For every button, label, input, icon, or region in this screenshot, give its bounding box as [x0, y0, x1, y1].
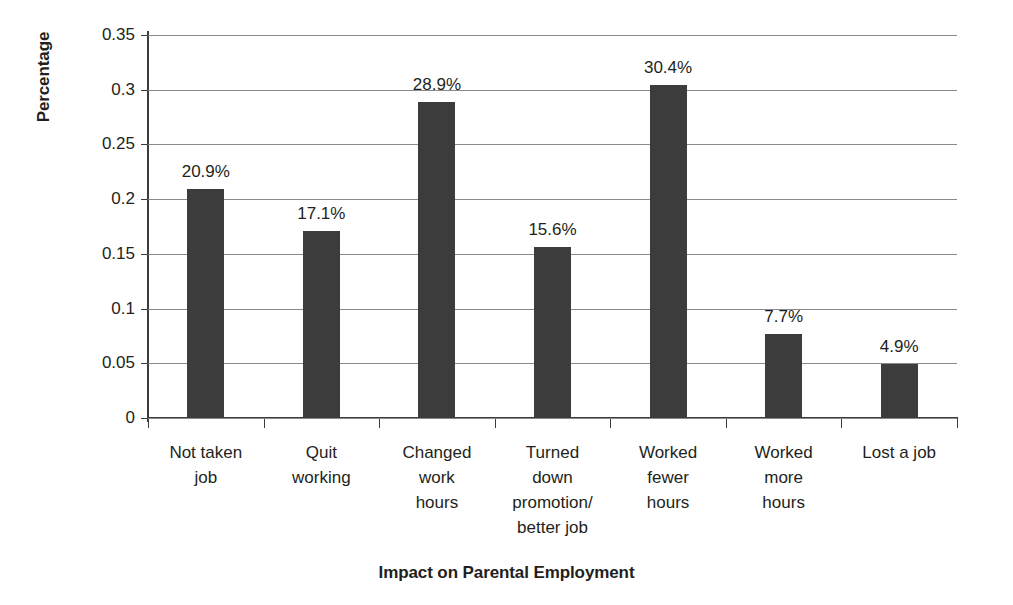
y-axis-tick: [141, 90, 148, 91]
x-axis-tick: [957, 419, 958, 428]
y-axis-tick-label: 0.1: [75, 300, 135, 317]
bar-value-label: 28.9%: [387, 76, 487, 93]
y-axis-tick-label-slot: 0.35: [75, 26, 135, 43]
bar: [303, 231, 340, 418]
y-axis-title: Percentage: [34, 0, 54, 177]
x-axis-tick: [726, 419, 727, 428]
y-axis-tick: [141, 254, 148, 255]
bar: [650, 85, 687, 418]
bar: [418, 102, 455, 418]
bar-value-label: 7.7%: [734, 308, 834, 325]
bar: [534, 247, 571, 418]
bar: [765, 334, 802, 418]
x-axis-category-label: Worked fewer hours: [610, 440, 726, 515]
x-axis-category-label: Turned down promotion/ better job: [495, 440, 611, 540]
x-axis-tick: [148, 419, 149, 428]
y-axis-tick: [141, 418, 148, 419]
x-axis-title: Impact on Parental Employment: [0, 563, 1013, 583]
x-axis-category-label: Not taken job: [148, 440, 264, 490]
bar: [187, 189, 224, 418]
x-axis-tick: [610, 419, 611, 428]
y-axis-tick-label-slot: 0.2: [75, 190, 135, 207]
y-axis-tick-label-slot: 0: [75, 409, 135, 426]
y-axis-tick: [141, 309, 148, 310]
y-axis-tick-label: 0.2: [75, 190, 135, 207]
bar-chart: Percentage 00.050.10.150.20.250.30.35 20…: [0, 0, 1013, 605]
x-axis-category-label: Changed work hours: [379, 440, 495, 515]
y-axis-tick-label: 0: [75, 409, 135, 426]
bar-value-label: 4.9%: [849, 338, 949, 355]
gridline: [148, 418, 957, 419]
x-axis-category-label: Quit working: [264, 440, 380, 490]
bar-value-label: 20.9%: [156, 163, 256, 180]
y-axis-tick: [141, 199, 148, 200]
x-axis-tick: [841, 419, 842, 428]
y-axis-tick-label: 0.3: [75, 81, 135, 98]
x-axis-tick: [379, 419, 380, 428]
bar-value-label: 30.4%: [618, 59, 718, 76]
x-axis-tick: [495, 419, 496, 428]
y-axis-tick-label-slot: 0.25: [75, 135, 135, 152]
y-axis-tick-label: 0.25: [75, 135, 135, 152]
x-axis-tick: [264, 419, 265, 428]
gridline: [148, 35, 957, 36]
bar-value-label: 17.1%: [271, 205, 371, 222]
y-axis-tick-label-slot: 0.1: [75, 300, 135, 317]
y-axis-tick: [141, 363, 148, 364]
bar-value-label: 15.6%: [503, 221, 603, 238]
gridline: [148, 90, 957, 91]
y-axis-tick-label: 0.35: [75, 26, 135, 43]
bar: [881, 364, 918, 418]
y-axis-tick-label: 0.05: [75, 354, 135, 371]
y-axis-tick: [141, 144, 148, 145]
y-axis-tick-label-slot: 0.15: [75, 245, 135, 262]
y-axis-tick-label-slot: 0.3: [75, 81, 135, 98]
y-axis-tick-label: 0.15: [75, 245, 135, 262]
y-axis-tick: [141, 35, 148, 36]
gridline: [148, 144, 957, 145]
x-axis-category-label: Lost a job: [841, 440, 957, 465]
y-axis-tick-label-slot: 0.05: [75, 354, 135, 371]
x-axis-category-label: Worked more hours: [726, 440, 842, 515]
gridline: [148, 199, 957, 200]
